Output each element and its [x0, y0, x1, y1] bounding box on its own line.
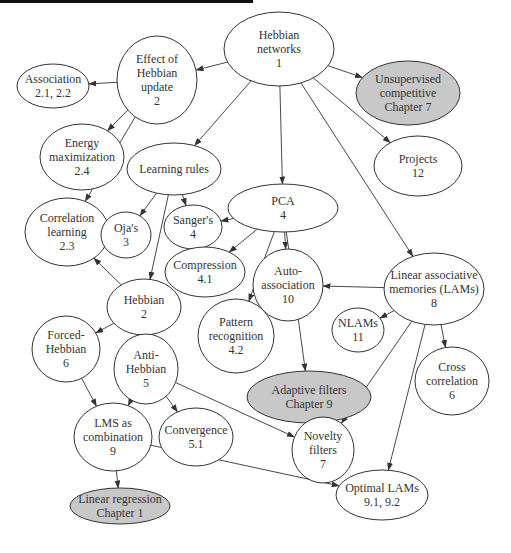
node-label: combination — [83, 430, 143, 444]
node-label: 6 — [63, 356, 69, 370]
node-label: Auto- — [274, 264, 302, 278]
node-label: Association — [25, 72, 82, 86]
node-label: 2.4 — [75, 164, 90, 178]
node-novelty-filters: Noveltyfilters7 — [292, 417, 354, 483]
node-label: Chapter 1 — [97, 506, 144, 520]
node-label: competitive — [380, 86, 437, 100]
node-label: filters — [309, 443, 337, 457]
node-label: 4 — [280, 208, 286, 222]
node-label: Effect of — [136, 52, 178, 66]
node-label: recognition — [209, 329, 264, 343]
node-label: Novelty — [304, 429, 343, 443]
edge-linear-associative-memories-to-nlams — [380, 311, 394, 319]
node-label: Hebbian — [126, 362, 167, 376]
node-anti-hebbian: Anti-Hebbian5 — [114, 334, 178, 404]
node-association: Association2.1, 2.2 — [17, 64, 89, 108]
edge-anti-hebbian-to-lms-as-combination — [128, 400, 131, 406]
node-label: Optimal LAMs — [345, 481, 419, 495]
node-pca: PCA4 — [228, 184, 338, 232]
node-label: 8 — [431, 296, 437, 310]
node-label: networks — [257, 42, 301, 56]
node-convergence: Convergence5.1 — [159, 408, 233, 466]
node-label: 4.2 — [229, 343, 244, 357]
node-label: maximization — [49, 150, 115, 164]
node-label: 2 — [141, 307, 147, 321]
edge-hebbian-networks-to-unsupervised-competitive — [328, 66, 362, 78]
node-label: 1 — [276, 56, 282, 70]
node-correlation-learning: Correlationlearning2.3 — [25, 198, 109, 266]
node-hebbian: Hebbian2 — [107, 279, 181, 335]
node-label: 4.1 — [198, 272, 213, 286]
edge-lms-as-combination-to-linear-regression — [116, 471, 118, 488]
edge-effect-of-hebbian-update-to-energy-maximization — [108, 110, 128, 131]
node-nlams: NLAMs11 — [332, 308, 384, 352]
node-label: Oja's — [114, 221, 138, 235]
node-label: 3 — [123, 235, 129, 249]
node-label: 9 — [110, 444, 116, 458]
node-label: Energy — [65, 136, 99, 150]
edge-effect-of-hebbian-update-to-association — [89, 82, 117, 84]
node-label: Cross — [438, 360, 466, 374]
node-lms-as-combination: LMS ascombination9 — [74, 403, 152, 471]
node-label: Linear associative — [391, 268, 478, 282]
node-label: Correlation — [40, 211, 95, 225]
node-label: 2.3 — [60, 239, 75, 253]
node-sangers: Sanger's4 — [164, 205, 222, 249]
nodes-layer: Hebbiannetworks1Effect ofHebbianupdate2A… — [17, 12, 489, 524]
edge-hebbian-networks-to-effect-of-hebbian-update — [196, 62, 228, 70]
edge-pca-to-auto-association — [285, 232, 286, 249]
node-label: Adaptive filters — [272, 383, 347, 397]
node-label: Pattern — [219, 315, 253, 329]
node-label: Projects — [399, 152, 438, 166]
edge-hebbian-to-correlation-learning — [94, 258, 122, 285]
node-label: Hebbian — [46, 342, 87, 356]
node-label: Forced- — [47, 328, 84, 342]
node-hebbian-networks: Hebbiannetworks1 — [224, 12, 334, 86]
node-label: 2.1, 2.2 — [35, 86, 71, 100]
concept-map-diagram: Hebbiannetworks1Effect ofHebbianupdate2A… — [0, 0, 511, 553]
edge-learning-rules-to-ojas — [140, 193, 157, 216]
node-label: Unsupervised — [375, 72, 441, 86]
node-label: memories (LAMs) — [389, 282, 479, 296]
node-projects: Projects12 — [374, 136, 462, 196]
node-ojas: Oja's3 — [101, 212, 151, 258]
edge-hebbian-to-forced-hebbian — [96, 323, 114, 333]
edge-pca-to-sangers — [221, 219, 234, 222]
edge-hebbian-networks-to-pca — [280, 86, 283, 184]
node-cross-correlation: Crosscorrelation6 — [415, 347, 489, 415]
node-unsupervised-competitive: UnsupervisedcompetitiveChapter 7 — [356, 61, 460, 125]
edge-forced-hebbian-to-lms-as-combination — [82, 378, 97, 406]
node-label: 5.1 — [189, 437, 204, 451]
node-label: 12 — [412, 166, 424, 180]
node-label: 9.1, 9.2 — [364, 495, 400, 509]
node-label: PCA — [271, 194, 295, 208]
node-label: correlation — [426, 374, 478, 388]
node-optimal-lams: Optimal LAMs9.1, 9.2 — [336, 470, 428, 520]
node-label: Learning rules — [139, 162, 209, 176]
node-label: 4 — [190, 227, 196, 241]
node-forced-hebbian: Forced-Hebbian6 — [32, 316, 100, 382]
edge-linear-associative-memories-to-cross-correlation — [441, 325, 446, 348]
node-label: association — [261, 278, 314, 292]
node-linear-associative-memories: Linear associativememories (LAMs)8 — [384, 253, 484, 325]
node-label: Chapter 9 — [286, 397, 333, 411]
node-label: Chapter 7 — [385, 100, 432, 114]
node-label: NLAMs — [338, 316, 378, 330]
node-label: Hebbian — [124, 293, 165, 307]
edge-pca-to-compression — [229, 229, 257, 252]
node-adaptive-filters: Adaptive filtersChapter 9 — [247, 371, 371, 423]
node-learning-rules: Learning rules — [127, 143, 221, 195]
edge-anti-hebbian-to-convergence — [166, 396, 177, 412]
edge-linear-associative-memories-to-auto-association — [323, 286, 384, 288]
node-label: Linear regression — [78, 492, 162, 506]
node-linear-regression: Linear regressionChapter 1 — [70, 488, 170, 524]
node-label: Convergence — [164, 423, 227, 437]
node-label: 11 — [352, 330, 364, 344]
node-label: 7 — [320, 457, 326, 471]
node-label: Compression — [173, 258, 236, 272]
node-label: 6 — [449, 388, 455, 402]
node-energy-maximization: Energymaximization2.4 — [40, 124, 124, 190]
node-label: Hebbian — [259, 28, 300, 42]
node-label: Anti- — [133, 348, 158, 362]
node-label: update — [141, 80, 173, 94]
